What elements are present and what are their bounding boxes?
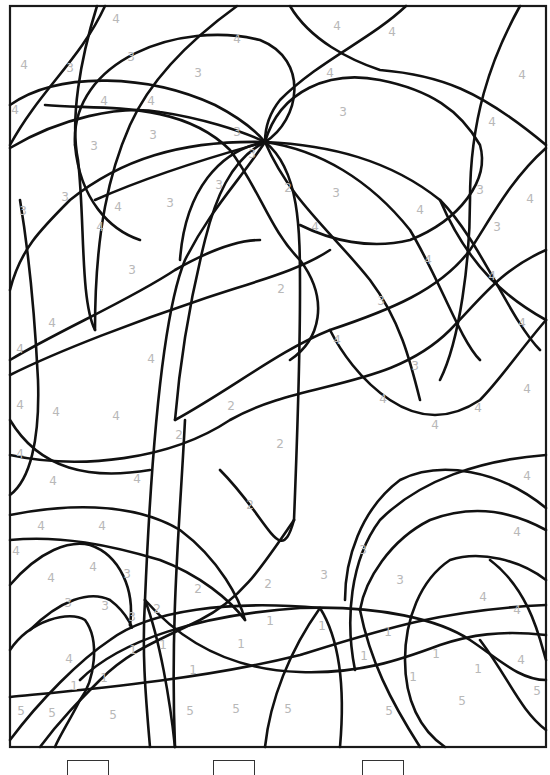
color-key-box-2[interactable] xyxy=(213,760,255,775)
color-key-box-3[interactable] xyxy=(362,760,404,775)
line-art xyxy=(10,6,546,747)
color-key-box-1[interactable] xyxy=(67,760,109,775)
